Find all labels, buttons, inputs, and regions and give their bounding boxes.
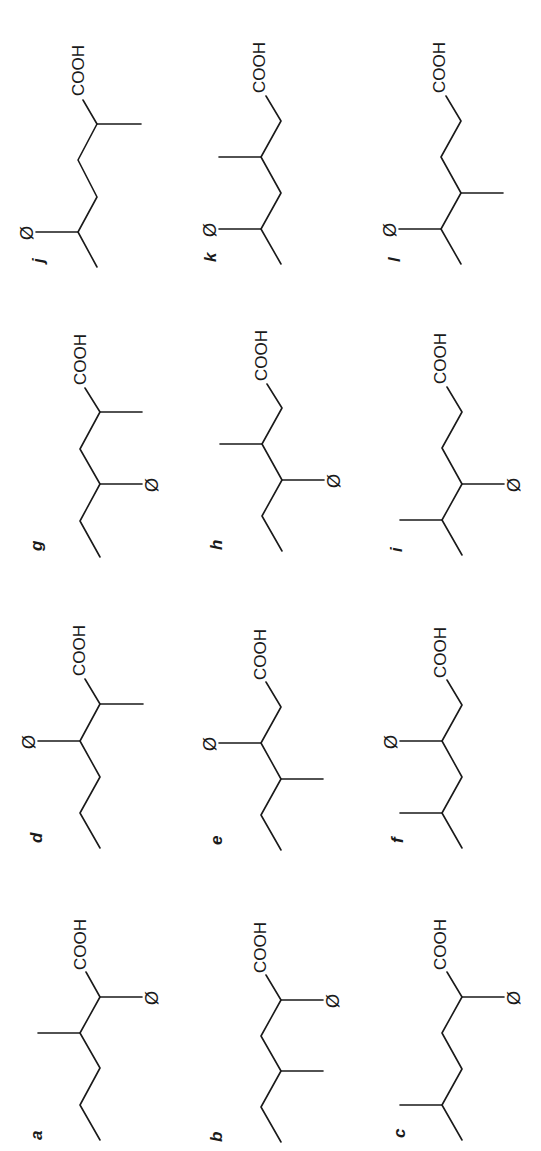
carbon-chain [262, 384, 282, 551]
cooh-label: COOH [69, 45, 88, 96]
carbon-chain [78, 100, 97, 267]
phenyl-symbol: Ø [504, 478, 524, 492]
cooh-label: COOH [431, 919, 450, 970]
compound-label: g [27, 540, 46, 552]
compound-h: COOH Ø h [207, 330, 344, 551]
cooh-label: COOH [251, 629, 270, 680]
carbon-chain [441, 96, 461, 264]
compound-l: COOH Ø l [380, 42, 503, 264]
carbon-chain [80, 388, 100, 557]
phenyl-symbol: Ø [142, 991, 162, 1005]
compound-label: h [207, 540, 226, 550]
phenyl-symbol: Ø [324, 474, 344, 488]
compound-g: COOH Ø g [27, 334, 162, 557]
phenyl-symbol: Ø [381, 735, 401, 749]
cooh-label: COOH [70, 625, 89, 676]
compound-label: e [207, 836, 226, 845]
compound-j: COOH Ø j [17, 45, 141, 267]
compound-label: i [387, 546, 406, 552]
carbon-chain [261, 682, 281, 850]
cooh-label: COOH [430, 42, 449, 93]
compound-label: f [388, 835, 407, 843]
compound-label: d [27, 832, 46, 843]
phenyl-symbol: Ø [380, 223, 400, 237]
phenyl-symbol: Ø [200, 223, 220, 237]
cooh-label: COOH [431, 333, 450, 384]
compound-grid-diagram: COOH Ø j COOH Ø g COOH Ø d COOH Ø a COOH [0, 0, 541, 1151]
phenyl-symbol: Ø [142, 478, 162, 492]
cooh-label: COOH [251, 922, 270, 973]
cooh-label: COOH [71, 919, 90, 970]
phenyl-symbol: Ø [200, 737, 220, 751]
compound-i: COOH Ø i [387, 333, 524, 555]
compound-label: l [385, 256, 404, 262]
compound-label: a [27, 1131, 46, 1140]
compound-label: b [207, 1132, 226, 1142]
compound-k: COOH Ø k [200, 42, 281, 264]
compound-c: COOH Ø c [390, 919, 524, 1140]
cooh-label: COOH [431, 627, 450, 678]
phenyl-symbol: Ø [323, 994, 343, 1008]
carbon-chain [442, 680, 462, 848]
compound-e: COOH Ø e [200, 629, 323, 850]
phenyl-symbol: Ø [504, 991, 524, 1005]
compound-label: j [29, 257, 48, 265]
cooh-label: COOH [252, 330, 271, 381]
compound-b: COOH Ø b [207, 922, 343, 1142]
carbon-chain [261, 975, 281, 1142]
phenyl-symbol: Ø [17, 226, 37, 240]
compound-f: COOH Ø f [381, 627, 462, 848]
carbon-chain [80, 972, 100, 1140]
compound-label: k [201, 251, 220, 262]
carbon-chain [261, 96, 281, 264]
carbon-chain [442, 972, 462, 1140]
compound-a: COOH Ø a [27, 919, 162, 1140]
cooh-label: COOH [71, 334, 90, 385]
carbon-chain [80, 679, 100, 848]
phenyl-symbol: Ø [19, 735, 39, 749]
compound-label: c [390, 1128, 409, 1138]
compound-d: COOH Ø d [19, 625, 143, 848]
carbon-chain [442, 387, 462, 555]
cooh-label: COOH [250, 42, 269, 93]
